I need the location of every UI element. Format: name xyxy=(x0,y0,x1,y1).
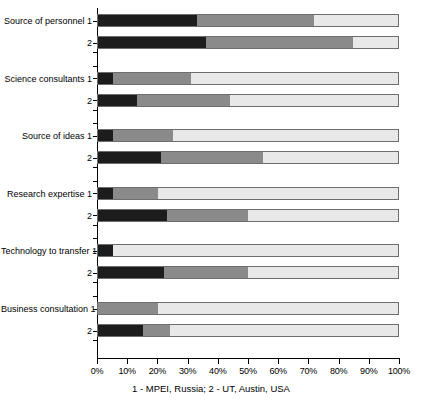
x-tick-label: 20% xyxy=(140,366,174,376)
y-minor-tick xyxy=(93,52,97,53)
bar-segment-1 xyxy=(98,267,164,278)
bar-segment-3 xyxy=(173,130,398,141)
bar-3-2 xyxy=(97,151,399,164)
group-label-1-2: 2 xyxy=(1,38,92,48)
bar-1-2 xyxy=(97,36,399,49)
bar-segment-2 xyxy=(113,130,173,141)
bar-segment-3 xyxy=(158,303,398,314)
x-tick xyxy=(339,359,340,364)
bar-segment-2 xyxy=(113,73,191,84)
y-tick xyxy=(93,43,97,44)
bar-segment-2 xyxy=(98,303,158,314)
bar-1-1 xyxy=(97,14,399,27)
bar-2-1 xyxy=(97,72,399,85)
bar-segment-1 xyxy=(98,325,143,336)
group-label-5-2: 2 xyxy=(1,268,92,278)
category-label-5: Technology to transfer 1 xyxy=(1,246,92,256)
bar-segment-3 xyxy=(158,188,398,199)
category-label-6: Business consultation 1 xyxy=(1,304,92,314)
y-minor-tick xyxy=(93,66,97,67)
bar-segment-3 xyxy=(314,15,398,26)
y-tick xyxy=(93,21,97,22)
bar-segment-2 xyxy=(167,210,248,221)
bar-2-2 xyxy=(97,94,399,107)
bar-segment-2 xyxy=(143,325,170,336)
bar-4-1 xyxy=(97,187,399,200)
bar-segment-1 xyxy=(98,188,113,199)
y-minor-tick xyxy=(93,238,97,239)
y-tick xyxy=(93,78,97,79)
y-minor-tick xyxy=(93,110,97,111)
x-tick-label: 0% xyxy=(80,366,114,376)
bar-segment-3 xyxy=(353,37,398,48)
x-tick xyxy=(127,359,128,364)
category-label-2: Science consultants 1 xyxy=(1,74,92,84)
y-minor-tick xyxy=(93,340,97,341)
y-tick xyxy=(93,273,97,274)
x-tick-label: 60% xyxy=(261,366,295,376)
bar-segment-2 xyxy=(164,267,248,278)
x-tick xyxy=(97,359,98,364)
y-minor-tick xyxy=(93,123,97,124)
x-tick-label: 30% xyxy=(171,366,205,376)
x-axis-caption: 1 - MPEI, Russia; 2 - UT, Austin, USA xyxy=(0,383,422,394)
bar-segment-3 xyxy=(248,267,398,278)
bar-segment-2 xyxy=(206,37,353,48)
y-tick xyxy=(93,215,97,216)
category-label-3: Source of ideas 1 xyxy=(1,131,92,141)
bar-segment-2 xyxy=(113,188,158,199)
x-tick xyxy=(308,359,309,364)
x-tick xyxy=(399,359,400,364)
bar-segment-3 xyxy=(191,73,398,84)
group-label-6-2: 2 xyxy=(1,326,92,336)
bar-segment-2 xyxy=(197,15,314,26)
x-tick xyxy=(369,359,370,364)
bar-6-2 xyxy=(97,324,399,337)
bar-5-2 xyxy=(97,266,399,279)
bar-segment-2 xyxy=(161,152,263,163)
x-tick-label: 90% xyxy=(352,366,386,376)
x-tick-label: 40% xyxy=(201,366,235,376)
y-minor-tick xyxy=(93,296,97,297)
bar-5-1 xyxy=(97,244,399,257)
bar-segment-2 xyxy=(137,95,230,106)
bar-6-1 xyxy=(97,302,399,315)
bar-4-2 xyxy=(97,209,399,222)
bar-segment-1 xyxy=(98,95,137,106)
x-tick-label: 80% xyxy=(322,366,356,376)
x-tick xyxy=(248,359,249,364)
bar-segment-3 xyxy=(113,245,398,256)
x-tick xyxy=(218,359,219,364)
bar-segment-3 xyxy=(263,152,398,163)
stacked-bar-chart: 0%10%20%30%40%50%60%70%80%90%100% 1 - MP… xyxy=(0,0,422,406)
category-label-1: Source of personnel 1 xyxy=(1,16,92,26)
bar-3-1 xyxy=(97,129,399,142)
bar-segment-1 xyxy=(98,73,113,84)
y-tick xyxy=(93,100,97,101)
bar-segment-1 xyxy=(98,210,167,221)
bar-segment-1 xyxy=(98,152,161,163)
x-tick xyxy=(157,359,158,364)
x-tick xyxy=(188,359,189,364)
bar-segment-1 xyxy=(98,130,113,141)
y-minor-tick xyxy=(93,282,97,283)
y-tick xyxy=(93,136,97,137)
bar-segment-1 xyxy=(98,15,197,26)
bar-segment-1 xyxy=(98,37,206,48)
bar-segment-1 xyxy=(98,245,113,256)
x-tick-label: 100% xyxy=(382,366,416,376)
y-minor-tick xyxy=(93,167,97,168)
group-label-3-2: 2 xyxy=(1,153,92,163)
x-tick-label: 70% xyxy=(291,366,325,376)
x-tick-label: 10% xyxy=(110,366,144,376)
y-tick xyxy=(93,193,97,194)
y-tick xyxy=(93,158,97,159)
bar-segment-3 xyxy=(248,210,398,221)
bar-segment-3 xyxy=(170,325,398,336)
category-label-4: Research expertise 1 xyxy=(1,189,92,199)
y-minor-tick xyxy=(93,181,97,182)
y-minor-tick xyxy=(93,225,97,226)
x-tick-label: 50% xyxy=(231,366,265,376)
y-tick xyxy=(93,331,97,332)
group-label-4-2: 2 xyxy=(1,211,92,221)
